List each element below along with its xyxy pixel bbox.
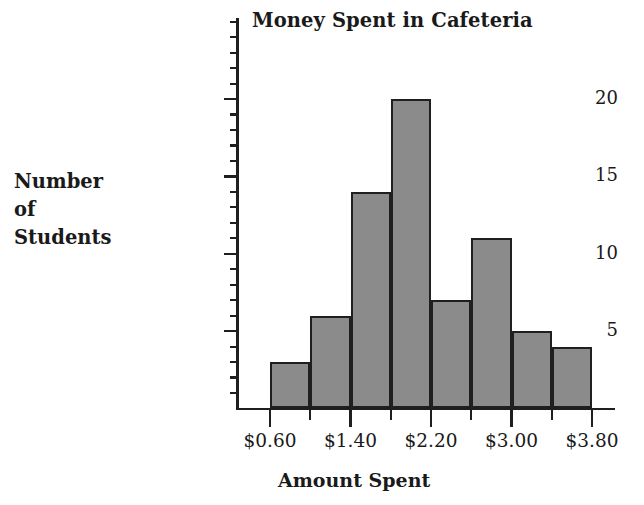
x-axis-major-tick: [510, 409, 512, 427]
x-axis-title: Amount Spent: [278, 469, 578, 491]
histogram-bar: [552, 347, 592, 409]
histogram-bar: [270, 362, 310, 408]
x-axis-tick-label: $2.20: [391, 430, 471, 451]
x-axis-major-tick: [430, 409, 432, 427]
histogram-bar: [471, 238, 511, 408]
x-axis-minor-tick: [309, 409, 311, 420]
x-axis-minor-tick: [390, 409, 392, 420]
x-axis-minor-tick: [551, 409, 553, 420]
x-axis-tick-label: $1.40: [311, 430, 391, 451]
x-axis-major-tick: [269, 409, 271, 427]
x-axis-tick-label: $3.80: [552, 430, 632, 451]
x-axis-major-tick: [349, 409, 351, 427]
x-axis-minor-tick: [470, 409, 472, 420]
histogram-bar: [310, 316, 350, 409]
x-axis-tick-label: $3.00: [472, 430, 552, 451]
histogram-bar: [391, 99, 431, 408]
histogram-bar: [512, 331, 552, 408]
histogram-bar: [351, 192, 391, 409]
histogram-bar: [431, 300, 471, 408]
x-axis-major-tick: [591, 409, 593, 427]
x-axis-tick-label: $0.60: [230, 430, 310, 451]
histogram-figure: Money Spent in Cafeteria Number of Stude…: [0, 0, 644, 505]
